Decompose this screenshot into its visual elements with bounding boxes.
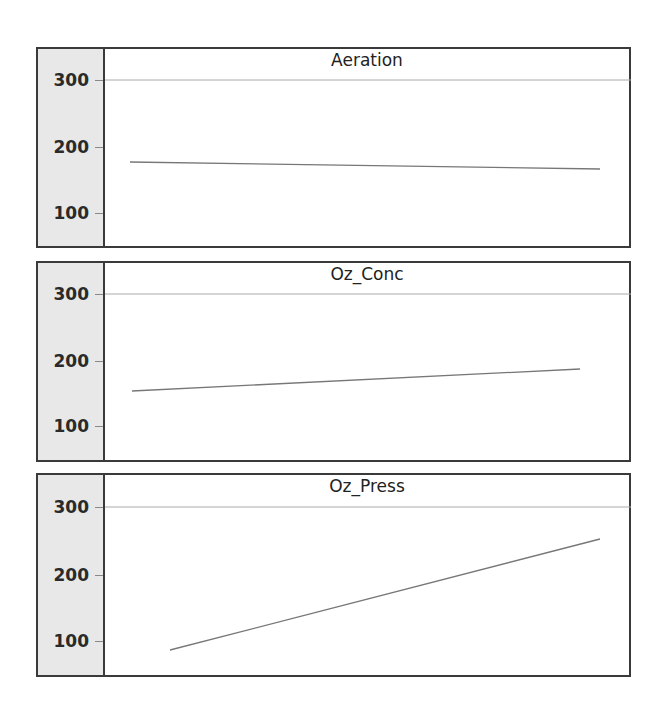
y-axis: 300 200 100 (38, 475, 105, 675)
y-tick-mark (95, 426, 103, 427)
y-tick-label: 200 (54, 567, 90, 584)
y-tick-label: 100 (54, 418, 90, 435)
y-tick-mark (95, 575, 103, 576)
y-tick-mark (95, 361, 103, 362)
y-tick-label: 200 (54, 353, 90, 370)
chart-panel-aeration: 300 200 100 Aeration (36, 47, 631, 248)
y-tick-label: 300 (54, 72, 90, 89)
plot-area: Aeration (105, 49, 629, 246)
y-axis: 300 200 100 (38, 263, 105, 460)
y-tick-label: 300 (54, 499, 90, 516)
line-series-oz-conc (105, 263, 631, 460)
y-tick-label: 200 (54, 139, 90, 156)
y-tick-label: 100 (54, 633, 90, 650)
y-tick-mark (95, 507, 103, 508)
y-tick-mark (95, 641, 103, 642)
chart-panel-oz-conc: 300 200 100 Oz_Conc (36, 261, 631, 462)
y-tick-mark (95, 213, 103, 214)
chart-panel-oz-press: 300 200 100 Oz_Press (36, 473, 631, 677)
y-tick-mark (95, 147, 103, 148)
y-axis: 300 200 100 (38, 49, 105, 246)
line-series-oz-press (105, 475, 631, 675)
y-tick-mark (95, 294, 103, 295)
y-tick-label: 100 (54, 205, 90, 222)
y-tick-label: 300 (54, 286, 90, 303)
plot-area: Oz_Conc (105, 263, 629, 460)
y-tick-mark (95, 80, 103, 81)
line-series-aeration (105, 49, 631, 246)
plot-area: Oz_Press (105, 475, 629, 675)
